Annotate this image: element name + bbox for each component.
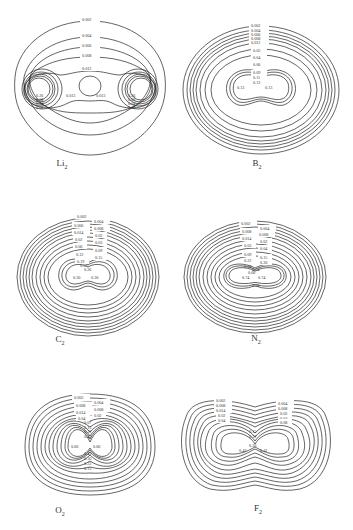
contour-label: 0.006 bbox=[82, 43, 91, 48]
contour-label: 0.03 bbox=[95, 240, 102, 245]
caption-li2: Li2 bbox=[42, 158, 82, 170]
contour-plot-li2: 0.002 0.004 0.006 0.008 0.012 0.013 0.01… bbox=[0, 5, 180, 175]
contour-label: 0.38 bbox=[244, 264, 251, 269]
contour-label: 0.002 bbox=[251, 23, 260, 28]
contour-label: 0.008 bbox=[82, 53, 91, 58]
contour-label: 0.002 bbox=[77, 214, 86, 219]
contour-label: 0.008 bbox=[259, 232, 268, 237]
contour-plot-n2: 0.002 0.004 0.008 0.008 0.014 0.02 0.03 … bbox=[180, 180, 353, 350]
contour-label: 0.30 bbox=[260, 260, 267, 265]
contour-label: 0.04 bbox=[218, 418, 226, 423]
contour-label: 0.03 bbox=[244, 243, 251, 248]
contour-label: 0.12 bbox=[253, 80, 260, 85]
contour-label: 0.02 bbox=[260, 239, 267, 244]
contour-label: 0.06 bbox=[253, 62, 260, 67]
contour-label: 0.15 bbox=[260, 255, 267, 260]
contour-label: 0.02 bbox=[36, 105, 43, 110]
contour-label: 0.006 bbox=[74, 223, 83, 228]
contour-label: 0.008 bbox=[94, 226, 103, 231]
contour-label: 0.26 bbox=[84, 267, 91, 272]
contour-label: 0.02 bbox=[95, 233, 102, 238]
caption-c2: C2 bbox=[40, 334, 80, 346]
caption-n2: N2 bbox=[236, 333, 276, 345]
contour-label: 0.04 bbox=[253, 55, 261, 60]
contour-label: 0.15 bbox=[84, 466, 91, 471]
contour-label: 0.013 bbox=[66, 93, 75, 98]
contour-label: 0.004 bbox=[82, 33, 92, 38]
contour-label: 0.008 bbox=[94, 407, 103, 412]
o2-contour-svg: 0.002 0.004 0.008 0.008 0.014 0.02 0.04 … bbox=[0, 355, 180, 530]
contour-label: 0.004 bbox=[260, 226, 270, 231]
caption-f2: F2 bbox=[238, 503, 278, 515]
contour-label: 0.012 bbox=[251, 40, 260, 45]
contour-label: 0.02 bbox=[128, 105, 135, 110]
contour-label: 0.13 bbox=[265, 85, 272, 90]
contour-label: 0.09 bbox=[244, 252, 251, 257]
contour-plot-f2: 0.002 0.004 0.008 0.008 0.014 0.02 0.02 … bbox=[180, 355, 353, 530]
contour-label: 0.02 bbox=[94, 413, 101, 418]
contour-label: 0.12 bbox=[76, 252, 83, 257]
contour-label: 0.013 bbox=[96, 93, 105, 98]
contour-label: 0.66 bbox=[93, 444, 100, 449]
contour-label: 0.004 bbox=[94, 400, 104, 405]
contour-plot-b2: 0.002 0.004 0.006 0.008 0.012 0.02 0.04 … bbox=[180, 5, 353, 175]
contour-label: 0.30 bbox=[91, 275, 98, 280]
caption-b2: B2 bbox=[237, 158, 277, 170]
contour-label: 0.014 bbox=[74, 230, 84, 235]
contour-label: 0.22 bbox=[244, 258, 251, 263]
n2-contour-svg: 0.002 0.004 0.008 0.008 0.014 0.02 0.03 … bbox=[180, 180, 353, 350]
contour-label: 0.008 bbox=[242, 229, 251, 234]
contour-label: 0.06 bbox=[75, 244, 82, 249]
contour-label: 0.09 bbox=[95, 248, 102, 253]
contour-label: 0.15 bbox=[95, 255, 102, 260]
c2-contour-svg: 0.002 0.004 0.006 0.008 0.014 0.02 0.02 … bbox=[0, 180, 180, 350]
contour-label: 0.13 bbox=[237, 85, 244, 90]
contour-label: 0.60 bbox=[71, 444, 78, 449]
contour-label: 0.08 bbox=[280, 420, 287, 425]
contour-label: 0.74 bbox=[258, 275, 266, 280]
contour-plot-c2: 0.002 0.004 0.006 0.008 0.014 0.02 0.02 … bbox=[0, 180, 180, 350]
contour-label: 0.22 bbox=[249, 434, 256, 439]
contour-label: 0.008 bbox=[76, 403, 85, 408]
contour-label: 0.014 bbox=[242, 236, 252, 241]
contour-label: 0.42 bbox=[84, 434, 91, 439]
contour-label: 0.02 bbox=[75, 237, 82, 242]
contour-label: 0.04 bbox=[260, 246, 268, 251]
contour-label: 0.58 bbox=[252, 283, 259, 288]
contour-label: 0.002 bbox=[82, 17, 91, 22]
contour-label: 0.42 bbox=[260, 448, 267, 453]
contour-label: 0.002 bbox=[241, 221, 250, 226]
contour-label: 0.012 bbox=[82, 66, 91, 71]
contour-plot-o2: 0.002 0.004 0.008 0.008 0.014 0.02 0.04 … bbox=[0, 355, 180, 530]
contour-label: 0.30 bbox=[73, 275, 80, 280]
contour-label: 0.42 bbox=[239, 448, 246, 453]
contour-label: 0.30 bbox=[249, 443, 256, 448]
contour-label: 0.002 bbox=[74, 395, 83, 400]
contour-label: 0.014 bbox=[76, 410, 86, 415]
b2-contour-svg: 0.002 0.004 0.006 0.008 0.012 0.02 0.04 … bbox=[180, 5, 353, 175]
contour-label: 0.004 bbox=[94, 219, 104, 224]
caption-o2: O2 bbox=[40, 505, 80, 517]
li2-contour-svg: 0.002 0.004 0.006 0.008 0.012 0.013 0.01… bbox=[0, 5, 180, 175]
contour-label: 0.74 bbox=[242, 275, 250, 280]
contour-label: 0.02 bbox=[253, 48, 260, 53]
